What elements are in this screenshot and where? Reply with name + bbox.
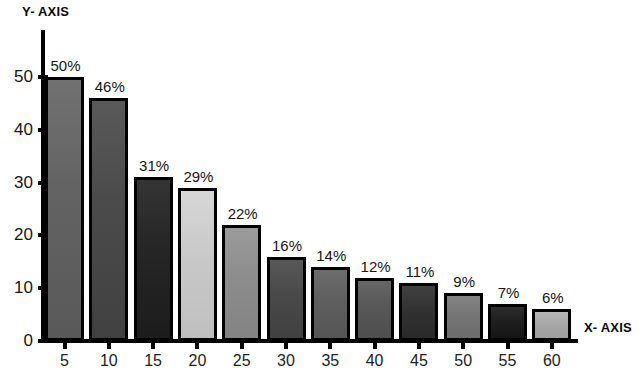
x-axis-tick-label: 55 <box>486 352 530 370</box>
bar-value-label: 12% <box>351 259 401 274</box>
y-axis-tick-label: 20 <box>0 226 33 243</box>
bar[interactable] <box>399 283 438 341</box>
bar-value-label: 22% <box>218 206 268 221</box>
bar[interactable] <box>222 225 261 341</box>
bar-value-label: 31% <box>129 158 179 173</box>
x-axis-tick-label: 60 <box>530 352 574 370</box>
bar-value-label: 6% <box>528 290 578 305</box>
bar[interactable] <box>267 257 306 341</box>
x-axis-tick <box>373 341 377 349</box>
bar-value-label: 50% <box>41 58 91 73</box>
y-axis-tick-label: 40 <box>0 121 33 138</box>
x-axis-tick <box>195 341 199 349</box>
x-axis-tick <box>328 341 332 349</box>
bar[interactable] <box>311 267 350 341</box>
x-axis-tick-label: 5 <box>43 352 87 370</box>
bar[interactable] <box>355 278 394 341</box>
bar-chart: Y- AXIS X- AXIS 01020304050 510152025303… <box>0 0 642 383</box>
bar[interactable] <box>89 98 128 341</box>
y-axis-tick-label: 0 <box>0 332 33 349</box>
bar[interactable] <box>444 293 483 341</box>
x-axis-tick-label: 35 <box>308 352 352 370</box>
bar-value-label: 9% <box>439 274 489 289</box>
x-axis-tick-label: 10 <box>87 352 131 370</box>
x-axis-tick <box>461 341 465 349</box>
x-axis-tick-label: 25 <box>220 352 264 370</box>
x-axis-tick <box>151 341 155 349</box>
x-axis-title: X- AXIS <box>584 320 632 335</box>
bar[interactable] <box>532 309 571 341</box>
bar[interactable] <box>488 304 527 341</box>
x-axis-tick-label: 50 <box>441 352 485 370</box>
bar-value-label: 14% <box>306 248 356 263</box>
y-axis-tick-label: 30 <box>0 174 33 191</box>
x-axis-tick-label: 15 <box>131 352 175 370</box>
x-axis-tick-label: 30 <box>264 352 308 370</box>
bar-value-label: 7% <box>484 285 534 300</box>
x-axis-tick <box>107 341 111 349</box>
x-axis-tick <box>240 341 244 349</box>
x-axis-tick <box>417 341 421 349</box>
bar[interactable] <box>45 77 84 341</box>
bar-value-label: 16% <box>262 238 312 253</box>
x-axis-tick <box>63 341 67 349</box>
y-axis-tick-label: 50 <box>0 68 33 85</box>
x-axis-tick <box>284 341 288 349</box>
bar[interactable] <box>178 188 217 341</box>
x-axis-tick-label: 20 <box>175 352 219 370</box>
x-axis-tick <box>550 341 554 349</box>
bar-value-label: 11% <box>395 264 445 279</box>
x-axis-tick-label: 45 <box>397 352 441 370</box>
bar[interactable] <box>134 177 173 341</box>
y-axis-title: Y- AXIS <box>22 4 69 19</box>
x-axis-tick-label: 40 <box>353 352 397 370</box>
bar-value-label: 46% <box>85 79 135 94</box>
x-axis-tick <box>506 341 510 349</box>
bar-value-label: 29% <box>173 169 223 184</box>
y-axis-tick-label: 10 <box>0 279 33 296</box>
